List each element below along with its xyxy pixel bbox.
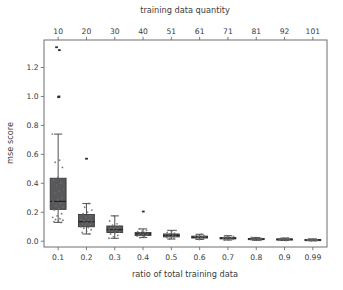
scatter-point bbox=[315, 240, 317, 242]
scatter-point bbox=[231, 237, 233, 239]
scatter-point bbox=[316, 239, 318, 241]
scatter-point bbox=[310, 240, 312, 242]
scatter-point bbox=[175, 229, 177, 231]
scatter-point bbox=[228, 239, 230, 241]
scatter-point bbox=[250, 239, 252, 241]
outlier-point bbox=[57, 96, 60, 98]
scatter-point bbox=[112, 224, 114, 226]
scatter-point bbox=[116, 229, 118, 231]
scatter-point bbox=[232, 238, 234, 240]
x-tick-label: 0.5 bbox=[165, 253, 177, 262]
y-axis-title: mse score bbox=[5, 122, 15, 164]
scatter-point bbox=[282, 239, 284, 241]
x-tick-label: 0.7 bbox=[222, 253, 234, 262]
scatter-point bbox=[56, 215, 58, 217]
scatter-point bbox=[144, 232, 146, 234]
scatter-point bbox=[141, 234, 143, 236]
scatter-point bbox=[195, 238, 197, 240]
scatter-point bbox=[170, 236, 172, 238]
scatter-point bbox=[84, 206, 86, 208]
scatter-point bbox=[80, 226, 82, 228]
scatter-point bbox=[53, 179, 55, 181]
scatter-point bbox=[260, 239, 262, 241]
scatter-point bbox=[233, 235, 235, 237]
scatter-point bbox=[53, 209, 55, 211]
scatter-point bbox=[90, 229, 92, 231]
scatter-point bbox=[226, 237, 228, 239]
scatter-point bbox=[229, 238, 231, 240]
scatter-point bbox=[91, 221, 93, 223]
scatter-point bbox=[57, 220, 59, 222]
scatter-point bbox=[59, 218, 61, 220]
x-tick-label: 0.8 bbox=[250, 253, 262, 262]
scatter-point bbox=[80, 219, 82, 221]
scatter-point bbox=[89, 233, 91, 235]
box-iqr bbox=[50, 178, 66, 209]
scatter-point bbox=[138, 228, 140, 230]
scatter-point bbox=[165, 234, 167, 236]
scatter-point bbox=[200, 237, 202, 239]
x-tick-label: 0.1 bbox=[52, 253, 64, 262]
scatter-point bbox=[54, 192, 56, 194]
x-tick-label: 0.99 bbox=[304, 253, 321, 262]
scatter-point bbox=[257, 239, 259, 241]
scatter-point bbox=[59, 159, 61, 161]
scatter-point bbox=[82, 223, 84, 225]
scatter-point bbox=[52, 200, 54, 202]
scatter-point bbox=[224, 236, 226, 238]
secondary-x-tick-label: 61 bbox=[195, 27, 205, 36]
y-tick-label: 1.2 bbox=[26, 63, 38, 72]
secondary-x-tick-label: 101 bbox=[306, 27, 321, 36]
scatter-point bbox=[198, 239, 200, 241]
secondary-x-tick-label: 71 bbox=[223, 27, 233, 36]
secondary-x-tick-label: 40 bbox=[138, 27, 148, 36]
scatter-point bbox=[83, 220, 85, 222]
scatter-point bbox=[144, 236, 146, 238]
y-tick-label: 1.0 bbox=[26, 92, 38, 101]
secondary-x-tick-label: 10 bbox=[53, 27, 63, 36]
x-tick-label: 0.9 bbox=[279, 253, 291, 262]
scatter-point bbox=[141, 230, 143, 232]
x-tick-label: 0.2 bbox=[80, 253, 92, 262]
scatter-point bbox=[225, 235, 227, 237]
scatter-point bbox=[175, 235, 177, 237]
scatter-point bbox=[166, 232, 168, 234]
scatter-point bbox=[253, 239, 255, 241]
scatter-point bbox=[55, 219, 57, 221]
x-axis-title: ratio of total training data bbox=[132, 269, 238, 279]
scatter-point bbox=[112, 236, 114, 238]
scatter-point bbox=[287, 239, 289, 241]
scatter-point bbox=[225, 238, 227, 240]
y-tick-label: 0.0 bbox=[26, 237, 38, 246]
scatter-point bbox=[147, 233, 149, 235]
y-tick-label: 0.8 bbox=[26, 121, 38, 130]
scatter-point bbox=[58, 190, 60, 192]
scatter-point bbox=[85, 216, 87, 218]
scatter-point bbox=[83, 227, 85, 229]
scatter-point bbox=[110, 233, 112, 235]
scatter-point bbox=[146, 229, 148, 231]
outlier-point bbox=[85, 158, 88, 160]
scatter-point bbox=[110, 227, 112, 229]
scatter-point bbox=[166, 237, 168, 239]
scatter-point bbox=[203, 238, 205, 240]
scatter-point bbox=[109, 220, 111, 222]
scatter-point bbox=[139, 237, 141, 239]
scatter-point bbox=[222, 237, 224, 239]
scatter-point bbox=[172, 234, 174, 236]
secondary-x-tick-label: 20 bbox=[82, 27, 92, 36]
scatter-point bbox=[250, 236, 252, 238]
scatter-point bbox=[288, 238, 290, 240]
scatter-point bbox=[203, 235, 205, 237]
scatter-point bbox=[169, 233, 171, 235]
x-tick-label: 0.6 bbox=[194, 253, 206, 262]
y-tick-label: 0.4 bbox=[26, 179, 38, 188]
scatter-point bbox=[194, 236, 196, 238]
scatter-point bbox=[57, 199, 59, 201]
scatter-point bbox=[167, 235, 169, 237]
scatter-point bbox=[200, 233, 202, 235]
scatter-point bbox=[61, 213, 63, 215]
scatter-point bbox=[113, 215, 115, 217]
scatter-point bbox=[204, 237, 206, 239]
scatter-point bbox=[57, 177, 59, 179]
